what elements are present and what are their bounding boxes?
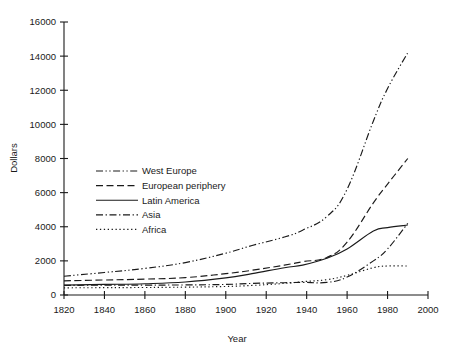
x-tick-label: 1900 [215,304,236,315]
x-tick-label: 1880 [175,304,196,315]
x-tick-label: 1960 [337,304,358,315]
legend-item-label: West Europe [142,165,197,176]
y-tick-label: 2000 [35,255,56,266]
legend-item-label: Latin America [142,195,200,206]
x-tick-label: 1820 [53,304,74,315]
series-lines [64,53,408,288]
legend-item-label: European periphery [142,180,226,191]
y-tick-label: 6000 [35,187,56,198]
x-tick-label: 2000 [417,304,438,315]
line-chart: 0200040006000800010000120001400016000 18… [0,0,453,353]
series-line-european-periphery [64,159,408,281]
x-tick-label: 1860 [134,304,155,315]
x-tick-label: 1940 [296,304,317,315]
y-tick-label: 0 [51,289,56,300]
x-tick-label: 1920 [256,304,277,315]
y-tick-label: 4000 [35,221,56,232]
y-axis-ticks: 0200040006000800010000120001400016000 [30,16,68,300]
series-line-latin-america [64,225,408,285]
legend-item-label: Africa [142,224,167,235]
y-axis-title: Dollars [8,143,19,173]
y-tick-label: 12000 [30,85,56,96]
chart-canvas: 0200040006000800010000120001400016000 18… [0,0,453,353]
axis-lines [64,22,428,295]
y-tick-label: 14000 [30,51,56,62]
x-tick-label: 1840 [94,304,115,315]
y-tick-label: 8000 [35,153,56,164]
x-tick-label: 1980 [377,304,398,315]
x-axis-title: Year [227,333,246,344]
y-tick-label: 16000 [30,16,56,27]
legend-item-label: Asia [142,209,161,220]
y-tick-label: 10000 [30,119,56,130]
chart-legend: West EuropeEuropean peripheryLatin Ameri… [96,165,226,234]
